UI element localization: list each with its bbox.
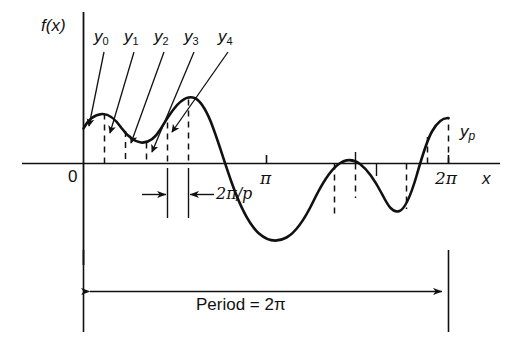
x-tick-label-pi: π bbox=[260, 170, 271, 187]
x-axis-label: x bbox=[482, 170, 491, 187]
sample-label-y3: y3 bbox=[184, 28, 199, 45]
period-indicator bbox=[84, 250, 449, 332]
y-axis-label: f(x) bbox=[41, 17, 66, 34]
sample-label-y1-sub: 1 bbox=[133, 35, 139, 47]
sample-label-y1-base: y bbox=[124, 27, 133, 46]
sample-label-y3-sub: 3 bbox=[193, 35, 199, 47]
sample-label-y0: y0 bbox=[94, 28, 109, 45]
sample-label-yp-sub: p bbox=[469, 129, 476, 143]
sample-label-y2-base: y bbox=[154, 27, 163, 46]
sample-ordinate-lines-trough bbox=[335, 164, 356, 217]
leader-arrow-y1 bbox=[110, 52, 134, 133]
sample-label-y1: y1 bbox=[124, 28, 139, 45]
sample-label-y3-base: y bbox=[184, 27, 193, 46]
label-leader-arrows bbox=[89, 52, 228, 152]
figure-waveform-sampling: f(x) 0 π 2π x y0 y1 y2 y3 y4 yp 2π/p Per… bbox=[0, 0, 513, 343]
sample-label-y4: y4 bbox=[218, 28, 233, 45]
sample-label-y4-sub: 4 bbox=[227, 35, 233, 47]
sample-label-y2: y2 bbox=[154, 28, 169, 45]
period-label: Period = 2π bbox=[196, 296, 286, 313]
sample-label-y2-sub: 2 bbox=[163, 35, 169, 47]
sample-spacing-label: 2π/p bbox=[216, 186, 252, 202]
sample-label-yp: yp bbox=[460, 123, 475, 140]
sample-label-y4-base: y bbox=[218, 27, 227, 46]
x-tick-label-2pi: 2π bbox=[435, 170, 457, 187]
sample-label-y0-sub: 0 bbox=[103, 35, 109, 47]
origin-label: 0 bbox=[68, 168, 77, 185]
leader-arrow-y4 bbox=[172, 52, 228, 132]
sample-spacing-indicator bbox=[142, 168, 214, 218]
sample-label-yp-base: y bbox=[460, 122, 469, 141]
sample-label-y0-base: y bbox=[94, 27, 103, 46]
